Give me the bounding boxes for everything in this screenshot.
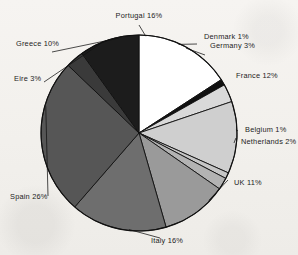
pie-label-netherlands: Netherlands 2% — [241, 137, 296, 146]
pie-label-denmark: Denmark 1% — [204, 32, 249, 41]
pie-chart: Portugal 16%Denmark 1%Germany 3%France 1… — [0, 0, 298, 255]
pie-label-portugal: Portugal 16% — [0, 11, 288, 20]
pie-label-spain: Spain 26% — [10, 192, 48, 201]
pie-label-greece: Greece 10% — [16, 39, 59, 48]
pie-label-france: France 12% — [236, 71, 278, 80]
pie-label-belgium: Belgium 1% — [245, 125, 286, 134]
pie-label-eire: Eire 3% — [14, 74, 41, 83]
pie-label-italy: Italy 16% — [18, 236, 298, 245]
pie-label-germany: Germany 3% — [210, 41, 255, 50]
pie-label-uk: UK 11% — [234, 178, 262, 187]
